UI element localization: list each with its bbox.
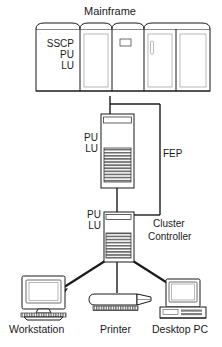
mainframe-sna-stack-label: SSCPPULU — [40, 38, 74, 72]
mainframe-title-label: Mainframe — [84, 5, 136, 17]
cluster-stack-pu: PU — [87, 209, 101, 220]
desktop-pc-label: Desktop PC — [152, 324, 208, 336]
desktop-pc-icon-graphic — [160, 279, 206, 318]
cluster-stack-lu: LU — [88, 220, 101, 231]
workstation-label: Workstation — [9, 324, 64, 336]
printer-label: Printer — [100, 324, 131, 336]
fep-sna-stack-label: PULU — [74, 132, 98, 154]
cluster-controller-vent-grille — [106, 233, 131, 258]
mainframe-stack-sscp: SSCP — [47, 38, 74, 49]
mainframe-stack-pu: PU — [60, 49, 74, 60]
cluster-controller-label-line1: Cluster — [153, 218, 185, 229]
fep-top-panel — [104, 117, 132, 123]
cluster-controller-top-panel — [106, 215, 131, 220]
fep-stack-pu: PU — [84, 132, 98, 143]
mainframe-stack-lu: LU — [61, 60, 74, 71]
printer-icon-graphic — [89, 294, 151, 311]
mainframe-console-screen — [120, 39, 131, 46]
fep-graphic — [101, 114, 134, 188]
cluster-controller-label-line2: Controller — [148, 231, 191, 242]
diagram-vector-layer — [0, 0, 222, 347]
diagram-canvas: Mainframe SSCPPULU PULU FEP PULU Cluster… — [0, 0, 222, 347]
cluster-controller-sna-stack-label: PULU — [77, 209, 101, 231]
mainframe-door-handle — [151, 41, 154, 54]
fep-label: FEP — [163, 148, 182, 159]
workstation-icon-graphic — [21, 276, 66, 320]
cluster-controller-graphic — [104, 212, 134, 262]
fep-vent-grille — [104, 148, 131, 182]
link-fanout — [58, 261, 180, 291]
fep-stack-lu: LU — [85, 143, 98, 154]
